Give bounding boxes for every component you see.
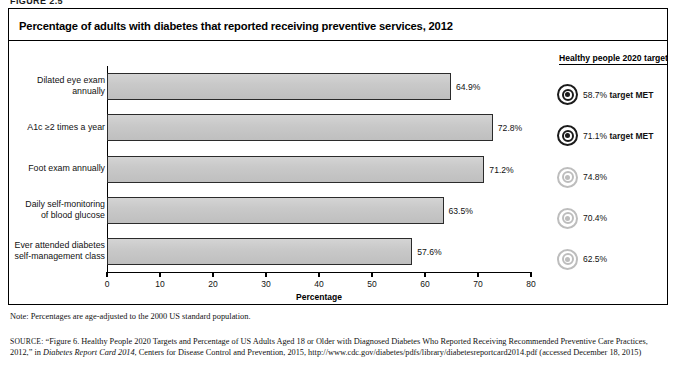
plot-area: 01020304050607080 64.9%72.8%71.2%63.5%57… — [107, 66, 531, 272]
x-tick-mark — [265, 272, 266, 277]
target-unmet-bullseye-icon — [557, 249, 578, 270]
x-tick-label: 30 — [261, 279, 270, 289]
target-value: 74.8% — [583, 172, 607, 182]
x-tick-mark — [318, 272, 319, 277]
x-tick-label: 40 — [314, 279, 323, 289]
bar-value-label: 63.5% — [449, 206, 473, 216]
x-tick-mark — [424, 272, 425, 277]
x-tick-mark — [371, 272, 372, 277]
target-value: 58.7% — [583, 90, 607, 100]
x-tick-mark — [212, 272, 213, 277]
bullseye-dot — [565, 257, 570, 262]
target-label: 70.4% — [583, 213, 607, 223]
bar — [107, 73, 451, 100]
target-row: 71.1% target MET — [557, 125, 653, 146]
target-value: 70.4% — [583, 213, 607, 223]
x-tick-label: 50 — [367, 279, 376, 289]
source-text-part2: , Centers for Disease Control and Preven… — [135, 348, 642, 357]
x-tick-label: 60 — [420, 279, 429, 289]
category-label: Dilated eye examannually — [0, 75, 105, 97]
category-label: Daily self-monitoringof blood glucose — [0, 199, 105, 221]
target-row: 70.4% — [557, 208, 607, 229]
source-prefix: SOURCE: — [10, 337, 43, 346]
figure-page: FIGURE 2.5 Percentage of adults with dia… — [0, 0, 676, 380]
x-tick-label: 10 — [155, 279, 164, 289]
x-tick-label: 80 — [526, 279, 535, 289]
category-label-line: Daily self-monitoring — [0, 199, 105, 210]
title-divider — [9, 40, 667, 41]
target-value: 62.5% — [583, 254, 607, 264]
bar-value-label: 57.6% — [417, 247, 441, 257]
chart-title: Percentage of adults with diabetes that … — [19, 20, 453, 32]
category-label-line: Foot exam annually — [0, 163, 105, 174]
category-label-line: Dilated eye exam — [0, 75, 105, 86]
category-label: Foot exam annually — [0, 163, 105, 174]
target-unmet-bullseye-icon — [557, 167, 578, 188]
bullseye-dot — [565, 216, 570, 221]
x-tick-mark — [477, 272, 478, 277]
targets-legend-header: Healthy people 2020 target — [559, 53, 668, 65]
category-label-line: A1c ≥2 times a year — [0, 122, 105, 133]
x-tick-mark — [530, 272, 531, 277]
x-tick-mark — [159, 272, 160, 277]
category-label-line: self-management class — [0, 251, 105, 262]
target-row: 74.8% — [557, 167, 607, 188]
figure-number-label: FIGURE 2.5 — [10, 0, 63, 6]
source-publication-title: Diabetes Report Card 2014 — [43, 348, 135, 357]
x-tick-mark — [106, 272, 107, 277]
target-label: 71.1% target MET — [583, 131, 653, 141]
category-label-line: annually — [0, 86, 105, 97]
target-label: 62.5% — [583, 254, 607, 264]
category-label: A1c ≥2 times a year — [0, 122, 105, 133]
bar — [107, 114, 493, 141]
bar — [107, 197, 444, 224]
target-row: 62.5% — [557, 249, 607, 270]
target-row: 58.7% target MET — [557, 84, 653, 105]
category-label-line: Ever attended diabetes — [0, 240, 105, 251]
target-label: 58.7% target MET — [583, 90, 653, 100]
figure-note: Note: Percentages are age-adjusted to th… — [10, 312, 250, 321]
bar — [107, 238, 412, 265]
bar-value-label: 71.2% — [489, 165, 513, 175]
category-label: Ever attended diabetesself-management cl… — [0, 240, 105, 262]
target-met-text: target MET — [607, 131, 653, 141]
figure-source: SOURCE: “Figure 6. Healthy People 2020 T… — [10, 336, 668, 358]
target-met-bullseye-icon — [557, 125, 578, 146]
category-label-line: of blood glucose — [0, 210, 105, 221]
figure-border-box: Percentage of adults with diabetes that … — [8, 8, 668, 305]
target-met-bullseye-icon — [557, 84, 578, 105]
x-tick-label: 0 — [105, 279, 110, 289]
target-unmet-bullseye-icon — [557, 208, 578, 229]
target-label: 74.8% — [583, 172, 607, 182]
target-value: 71.1% — [583, 131, 607, 141]
bar — [107, 156, 484, 183]
bar-value-label: 64.9% — [456, 82, 480, 92]
target-met-text: target MET — [607, 90, 653, 100]
bar-value-label: 72.8% — [498, 123, 522, 133]
x-axis-title: Percentage — [107, 292, 531, 302]
x-tick-label: 70 — [473, 279, 482, 289]
x-tick-label: 20 — [208, 279, 217, 289]
bullseye-dot — [565, 175, 570, 180]
